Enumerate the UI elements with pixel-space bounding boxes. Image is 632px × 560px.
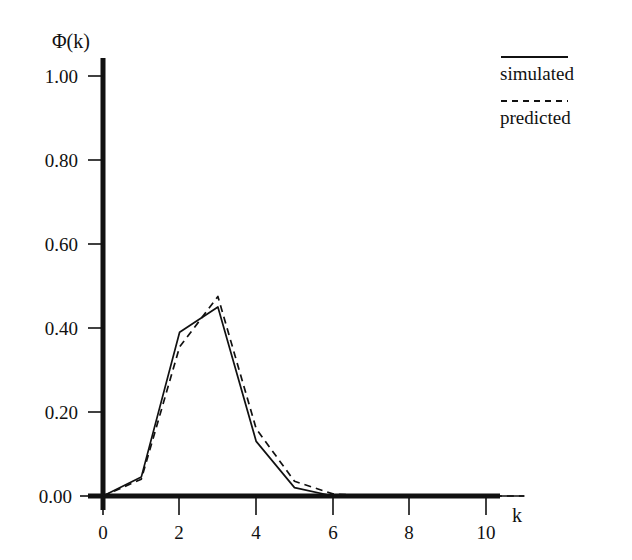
x-axis-title: k [512,504,522,526]
y-tick-label: 0.00 [39,486,72,507]
legend-item-simulated: simulated [500,57,574,84]
y-tick-label: 0.20 [45,402,78,423]
y-axis-ticks: 1.00 0.80 0.60 0.40 0.20 0.00 [39,66,103,507]
y-tick-label: 1.00 [45,66,78,87]
chart-page: Φ(k) k 1.00 0.80 0.60 0.40 0.20 0.00 [0,0,632,560]
x-tick-label: 2 [174,522,184,543]
y-tick-label: 0.40 [45,318,78,339]
legend-label-simulated: simulated [500,63,574,84]
x-tick-label: 0 [98,522,108,543]
x-tick-label: 6 [328,522,338,543]
x-tick-label: 4 [251,522,261,543]
legend-label-predicted: predicted [500,107,571,128]
chart-legend: simulated predicted [500,57,574,128]
x-axis-ticks: 0 2 4 6 8 10 [98,496,495,543]
x-tick-label: 10 [477,522,496,543]
y-axis-title: Φ(k) [52,30,90,53]
series-predicted-line [103,297,524,497]
y-tick-label: 0.80 [45,150,78,171]
legend-item-predicted: predicted [500,101,571,128]
series-simulated-line [103,307,524,496]
y-tick-label: 0.60 [45,234,78,255]
x-tick-label: 8 [404,522,414,543]
degree-distribution-chart: Φ(k) k 1.00 0.80 0.60 0.40 0.20 0.00 [0,0,632,560]
